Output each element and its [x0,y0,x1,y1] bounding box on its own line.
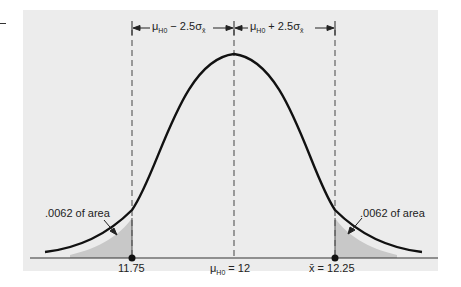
area-arrows [104,218,362,235]
right-tail-shade [335,218,397,258]
right-tail-area-label: .0062 of area [360,207,425,219]
right-critical-point [332,255,339,262]
left-critical-point [129,255,136,262]
left-tail-area-label: .0062 of area [45,207,110,219]
upper-bound-label: μH0 + 2.5σx̄ [250,20,303,34]
null-mean-label: μH0 = 12 [210,262,250,276]
sample-mean-label: x̄ = 12.25 [309,262,355,274]
lower-critical-value: 11.75 [118,262,145,274]
lower-bound-label: μH0 − 2.5σx̄ [152,20,205,34]
normal-curve-diagram [0,0,461,287]
left-tail-shade [70,218,132,258]
